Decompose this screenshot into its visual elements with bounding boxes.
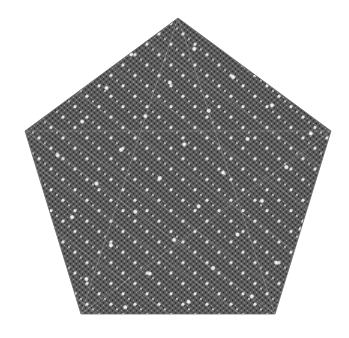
pentagon-pattern-image (0, 0, 349, 338)
